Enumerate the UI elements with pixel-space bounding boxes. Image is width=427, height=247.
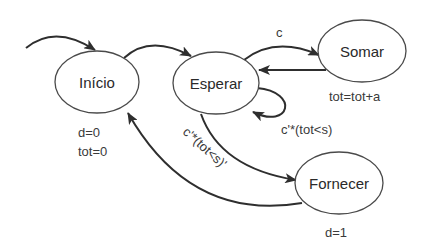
action-inicio-d: d=0 <box>78 125 100 140</box>
action-inicio-tot: tot=0 <box>78 144 107 159</box>
transition-esperar-to-somar <box>244 47 319 60</box>
transition-inicio-to-esperar <box>124 45 191 58</box>
state-diagram: Início Esperar Somar Fornecer d=0 tot=0 … <box>0 0 427 247</box>
state-fornecer: Fornecer <box>295 152 383 214</box>
state-inicio: Início <box>55 51 139 113</box>
action-somar-tot: tot=tot+a <box>329 89 381 104</box>
transition-label-self-loop: c'*(tot<s) <box>281 122 332 137</box>
state-label-fornecer: Fornecer <box>309 175 369 192</box>
action-fornecer-d: d=1 <box>325 225 347 240</box>
state-label-esperar: Esperar <box>190 75 243 92</box>
transition-label-c: c <box>276 25 283 40</box>
state-label-somar: Somar <box>340 43 384 60</box>
state-esperar: Esperar <box>173 52 259 114</box>
state-label-inicio: Início <box>79 74 115 91</box>
state-somar: Somar <box>318 20 406 82</box>
initial-transition-arrow <box>26 36 95 50</box>
